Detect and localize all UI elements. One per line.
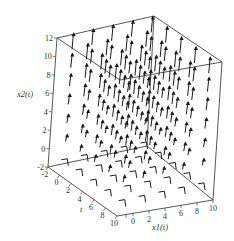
x2-tick-label: 0: [41, 145, 45, 154]
x1-tick-label: 6: [179, 209, 183, 218]
x1-tick-label: 10: [209, 204, 217, 213]
t-tick-label: -2: [42, 170, 49, 179]
x2-tick-label: 10: [44, 52, 52, 61]
x1-axis: 0246810: [126, 200, 217, 226]
t-tick-label: 6: [89, 203, 93, 212]
x2-axis: 121086420-2: [37, 34, 57, 172]
t-tick-label: 4: [78, 195, 82, 204]
x2-tick-label: 8: [46, 71, 50, 80]
x2-tick-label: 2: [43, 126, 47, 135]
x2-axis-label: x2(t): [16, 89, 33, 99]
x2-tick-label: 6: [45, 89, 49, 98]
t-tick-label: 8: [101, 211, 105, 220]
t-tick-label: 0: [55, 178, 59, 187]
direction-field-plot: 121086420-2 -20246810 0246810 x2(t) t x1…: [0, 0, 234, 241]
t-tick-label: 2: [66, 186, 70, 195]
x1-tick-label: 0: [131, 217, 135, 226]
vector-field-arrows: [61, 15, 212, 206]
x1-axis-label: x1(t): [151, 222, 168, 232]
plot-box: [48, 16, 222, 216]
t-axis: -20246810: [42, 167, 118, 228]
x2-tick-label: 4: [44, 108, 48, 117]
t-tick-label: 10: [110, 219, 118, 228]
x1-tick-label: 8: [195, 207, 199, 216]
x2-tick-label: 12: [45, 34, 53, 43]
x1-tick-label: 4: [163, 212, 167, 221]
x1-tick-label: 2: [147, 215, 151, 224]
t-axis-label: t: [80, 204, 83, 214]
